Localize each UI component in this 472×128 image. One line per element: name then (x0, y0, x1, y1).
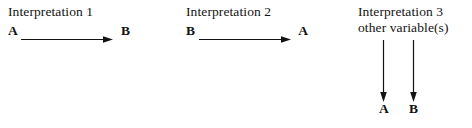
right-arrow-icon (21, 30, 113, 39)
right-arrow-icon (199, 30, 291, 39)
interpretation-3-source-node: other variable(s) (358, 20, 449, 36)
interpretation-2-target-node: A (298, 22, 308, 40)
interpretation-2-relation: B A (186, 22, 308, 40)
interpretation-1-relation: A B (8, 22, 130, 40)
interpretation-2-title: Interpretation 2 (186, 4, 271, 20)
down-arrow-icon (409, 40, 418, 102)
interpretations-figure: Interpretation 1 A B Interpretation 2 B (0, 0, 472, 128)
interpretation-3-target-node-a: A (379, 101, 389, 117)
interpretation-2-source-node: B (186, 22, 195, 40)
down-arrow-icon (379, 40, 388, 102)
interpretation-1-panel: Interpretation 1 A B (8, 0, 168, 128)
interpretation-3-panel: Interpretation 3 other variable(s) A B (358, 0, 472, 128)
interpretation-3-title: Interpretation 3 (358, 4, 443, 20)
interpretation-3-target-node-b: B (409, 101, 418, 117)
interpretation-1-source-node: A (8, 22, 18, 40)
interpretation-2-panel: Interpretation 2 B A (186, 0, 346, 128)
interpretation-1-title: Interpretation 1 (8, 4, 93, 20)
interpretation-1-target-node: B (121, 22, 130, 40)
